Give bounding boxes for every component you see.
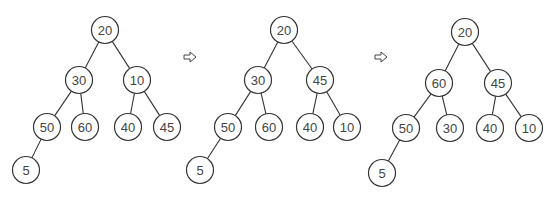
tree-edge [32,139,41,158]
node-value: 5 [196,163,203,178]
node-value: 45 [313,73,327,88]
tree-step-1: 203010506040455 [13,17,181,184]
node-value: 40 [121,120,135,135]
tree-edge [327,92,341,116]
tree-edge [235,91,250,115]
tree-node: 50 [215,114,242,141]
tree-node: 5 [369,160,396,187]
tree-edge [472,43,490,71]
tree-edge [55,91,72,116]
tree-node: 50 [34,114,61,141]
tree-edge [414,94,431,117]
node-value: 60 [262,120,276,135]
tree-node: 50 [393,115,420,142]
tree-edge [388,140,399,161]
tree-node: 30 [245,67,272,94]
tree-node: 45 [485,70,512,97]
right-arrow-icon [375,52,387,62]
node-value: 45 [491,76,505,91]
node-value: 45 [160,120,174,135]
tree-edge [81,93,84,113]
node-value: 40 [303,120,317,135]
tree-step-3: 206045503040105 [369,19,543,187]
tree-node: 60 [256,114,283,141]
node-value: 10 [522,121,536,136]
tree-node: 20 [452,19,479,46]
tree-edge [506,94,522,117]
tree-edge [112,41,129,68]
tree-edge [144,91,159,115]
tree-node: 5 [187,157,214,184]
node-value: 60 [432,76,446,91]
tree-node: 20 [92,17,119,44]
tree-edge [313,93,317,114]
tree-node: 60 [72,114,99,141]
node-value: 50 [40,120,54,135]
tree-edge [207,138,220,158]
tree-node: 45 [307,67,334,94]
node-value: 10 [130,73,144,88]
tree-edge [292,41,312,69]
arrows-layer [184,52,387,62]
tree-node: 60 [426,70,453,97]
tree-node: 10 [516,115,543,142]
edges-layer [32,41,521,161]
tree-edge [492,96,495,114]
tree-node: 30 [66,67,93,94]
right-arrow-icon [184,52,196,62]
tree-node: 40 [477,115,504,142]
node-value: 30 [443,121,457,136]
node-value: 5 [378,166,385,181]
tree-edge [445,44,459,71]
node-value: 10 [340,120,354,135]
tree-node: 10 [124,67,151,94]
node-value: 20 [98,23,112,38]
tree-node: 30 [437,115,464,142]
tree-node: 5 [13,157,40,184]
node-value: 50 [399,121,413,136]
tree-node: 10 [334,114,361,141]
node-value: 20 [458,25,472,40]
tree-edge [131,93,135,113]
tree-node: 20 [271,17,298,44]
node-value: 30 [72,73,86,88]
tree-edge [85,42,99,68]
tree-edge [264,42,278,68]
tree-step-2: 203045506040105 [187,17,361,184]
node-value: 30 [251,73,265,88]
tree-edge [442,96,447,115]
tree-node: 40 [297,114,324,141]
nodes-layer: 2030105060404552030455060401052060455030… [13,17,543,187]
node-value: 60 [78,120,92,135]
tree-node: 45 [154,114,181,141]
node-value: 20 [277,23,291,38]
node-value: 40 [483,121,497,136]
tree-node: 40 [115,114,142,141]
heap-diagram: 2030105060404552030455060401052060455030… [0,0,555,201]
node-value: 50 [221,120,235,135]
tree-edge [261,93,266,114]
node-value: 5 [22,163,29,178]
